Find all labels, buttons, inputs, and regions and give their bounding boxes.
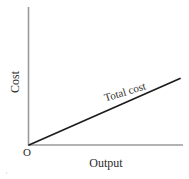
total-cost-line [29, 79, 180, 146]
x-axis-label: Output [89, 157, 122, 169]
page-speck [6, 172, 7, 174]
y-axis-label: Cost [9, 71, 21, 93]
origin-label: O [23, 147, 31, 158]
cost-output-chart: Cost Output Total cost O [0, 0, 189, 179]
